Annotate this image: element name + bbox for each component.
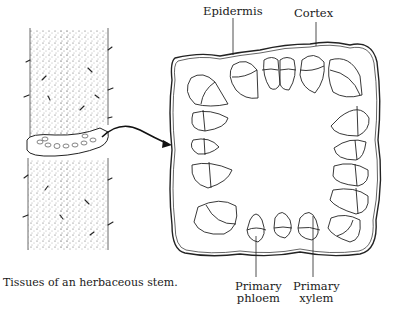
epidermis-label: Epidermis	[203, 5, 263, 17]
herbaceous-stem-illustration	[23, 28, 172, 250]
figure-caption: Tissues of an herbaceous stem.	[3, 276, 178, 289]
primary-xylem-label: Primary xylem	[293, 280, 340, 304]
primary-phloem-label-line2: phloem	[235, 292, 282, 304]
primary-phloem-label: Primary phloem	[235, 280, 282, 304]
stem-cross-section	[170, 18, 381, 277]
stem-diagram: Epidermis Cortex Primary phloem Primary …	[0, 0, 400, 314]
primary-xylem-label-line2: xylem	[293, 292, 340, 304]
cortex-label: Cortex	[294, 7, 333, 19]
